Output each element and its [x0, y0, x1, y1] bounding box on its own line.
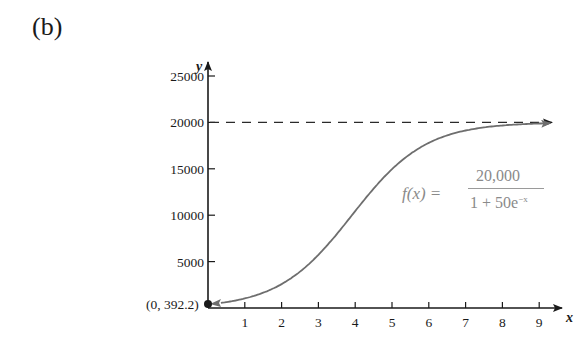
- x-tick-label: 8: [499, 315, 506, 330]
- formula-lhs: f(x) =: [402, 184, 441, 204]
- formula-denominator-exponent: −x: [518, 194, 528, 204]
- initial-point: [204, 300, 212, 308]
- x-tick-label: 9: [536, 315, 543, 330]
- x-tick-label: 7: [462, 315, 469, 330]
- x-tick-label: 4: [352, 315, 359, 330]
- y-tick-label: 25000: [170, 69, 204, 84]
- x-ticks: 123456789: [241, 302, 542, 330]
- y-tick-label: 15000: [170, 162, 204, 177]
- y-tick-label: 20000: [170, 115, 204, 130]
- logistic-curve: [221, 123, 550, 303]
- initial-point-label: (0, 392.2): [146, 297, 199, 312]
- x-tick-label: 6: [425, 315, 432, 330]
- x-tick-label: 1: [241, 315, 248, 330]
- y-tick-label: 10000: [170, 208, 204, 223]
- formula-denominator: 1 + 50e−x: [470, 194, 528, 212]
- formula-denominator-base: 1 + 50e: [470, 194, 518, 211]
- x-tick-label: 3: [315, 315, 322, 330]
- formula-fraction-bar: [468, 188, 544, 189]
- formula-numerator: 20,000: [476, 167, 520, 185]
- y-tick-label: 5000: [177, 255, 204, 270]
- x-tick-label: 2: [278, 315, 285, 330]
- x-axis-label: x: [565, 310, 573, 325]
- x-tick-label: 5: [389, 315, 396, 330]
